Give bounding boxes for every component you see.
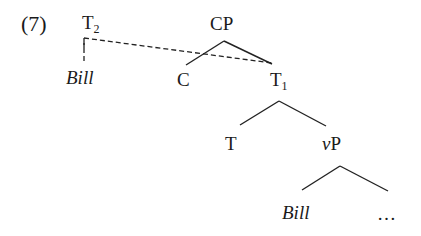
- node-t1-subscript: 1: [282, 79, 288, 93]
- edge-t1-vp: [279, 101, 326, 126]
- node-t2-subscript: 2: [94, 22, 100, 36]
- node-t1-base: T: [270, 69, 282, 90]
- edge-t1-t: [240, 101, 279, 125]
- node-vp: vP: [322, 134, 341, 153]
- edge-vp-ellipsis: [340, 166, 388, 191]
- tree-edges: [0, 0, 421, 236]
- node-bill-lower: Bill: [282, 203, 309, 222]
- node-ellipsis: …: [377, 204, 396, 223]
- edge-vp-bill: [302, 166, 340, 190]
- node-c: C: [177, 70, 190, 89]
- node-bill-upper: Bill: [66, 68, 93, 87]
- node-t2: T2: [82, 13, 100, 32]
- edge-cp-t1: [224, 41, 272, 64]
- node-t1: T1: [270, 70, 288, 89]
- node-t: T: [225, 134, 237, 153]
- node-vp-p: P: [330, 133, 341, 154]
- node-t2-base: T: [82, 12, 94, 33]
- edge-cp-c: [186, 41, 224, 65]
- node-cp: CP: [210, 14, 233, 33]
- example-number: (7): [21, 13, 47, 35]
